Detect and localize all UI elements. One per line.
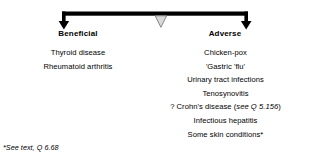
crohns-suffix: ) [278, 102, 281, 111]
list-item: Thyroid disease [8, 46, 148, 60]
fulcrum-triangle-icon [155, 16, 166, 27]
crohns-reference: see Q 5.156 [236, 102, 278, 111]
list-item: 'Gastric 'flu' [146, 60, 305, 74]
list-item: Tenosynovitis [146, 87, 305, 101]
balance-scale-diagram: Beneficial Adverse Thyroid disease Rheum… [0, 0, 309, 161]
right-arm-stem [244, 12, 248, 23]
heading-beneficial: Beneficial [18, 29, 138, 39]
balance-beam-graphic [0, 0, 309, 48]
beneficial-item-list: Thyroid disease Rheumatoid arthritis [8, 46, 148, 73]
list-item: Urinary tract infections [146, 73, 305, 87]
list-item: Chicken-pox [146, 46, 305, 60]
footnote: *See text, Q 6.68 [3, 143, 59, 152]
adverse-item-list: Chicken-pox 'Gastric 'flu' Urinary tract… [146, 46, 305, 141]
heading-adverse: Adverse [165, 29, 285, 39]
balance-beam [62, 12, 248, 16]
list-item-crohns: ? Crohn's disease (see Q 5.156) [146, 100, 305, 114]
list-item: Rheumatoid arthritis [8, 60, 148, 74]
list-item: Some skin conditions* [146, 128, 305, 142]
list-item: Infectious hepatitis [146, 114, 305, 128]
left-arm-stem [62, 12, 66, 23]
crohns-prefix: ? Crohn's disease ( [170, 102, 236, 111]
